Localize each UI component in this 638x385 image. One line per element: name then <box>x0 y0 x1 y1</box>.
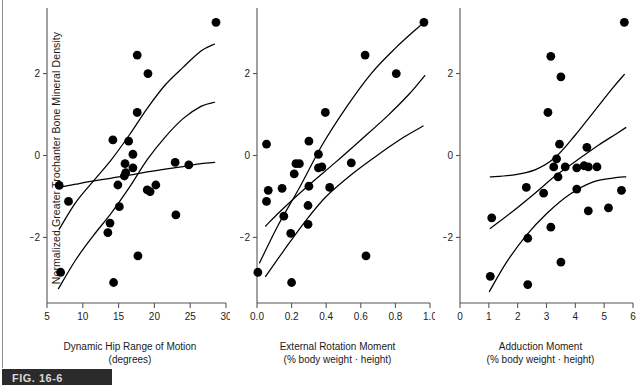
x-tick-label-2-2: 2 <box>515 311 521 322</box>
data-point <box>544 108 553 117</box>
data-point <box>620 18 629 27</box>
scatter-plot-2: 20−20123456 <box>443 0 638 340</box>
x-axis-caption-2: Adduction Moment (% body weight · height… <box>443 341 638 366</box>
data-point <box>325 183 334 192</box>
data-point <box>555 140 564 149</box>
data-point <box>593 163 602 172</box>
x-tick-label-2-6: 6 <box>630 311 636 322</box>
data-point <box>305 182 314 191</box>
data-point <box>557 72 566 81</box>
data-point <box>314 150 323 159</box>
y-tick-label-2-2: −2 <box>443 232 453 243</box>
data-point <box>314 163 323 172</box>
data-point <box>392 69 401 78</box>
data-point <box>523 280 532 289</box>
x-axis-caption-0: Dynamic Hip Range of Motion (degrees) <box>30 341 230 366</box>
data-point <box>264 186 273 195</box>
x-axis-title-1: External Rotation Moment <box>280 341 396 352</box>
data-point <box>212 18 221 27</box>
data-point <box>549 163 558 172</box>
x-tick-label-2-4: 4 <box>573 311 579 322</box>
data-point <box>290 170 299 179</box>
y-tick-label-0-2: −2 <box>30 232 40 243</box>
x-tick-label-2-1: 1 <box>486 311 492 322</box>
data-point <box>133 51 142 60</box>
data-point <box>106 219 115 228</box>
data-point <box>554 172 563 181</box>
y-tick-label-1-0: 2 <box>244 68 250 79</box>
x-tick-label-1-4: 0.8 <box>388 311 402 322</box>
data-point <box>295 159 304 168</box>
data-point <box>304 220 313 229</box>
x-axis-caption-1: External Rotation Moment (% body weight … <box>240 341 435 366</box>
data-point <box>286 229 295 238</box>
data-point <box>121 159 130 168</box>
x-tick-label-0-3: 20 <box>149 311 161 322</box>
data-point <box>546 223 555 232</box>
y-tick-label-0-0: 2 <box>34 68 40 79</box>
lower-confidence-band-1 <box>266 126 423 276</box>
figure-number-bar: FIG. 16-6 <box>2 369 112 385</box>
data-point <box>124 137 133 146</box>
data-point <box>134 251 143 260</box>
data-point <box>129 163 138 172</box>
x-tick-label-2-0: 0 <box>457 311 463 322</box>
y-tick-label-2-1: 0 <box>447 150 453 161</box>
y-tick-label-0-1: 0 <box>34 150 40 161</box>
lower-confidence-band-2 <box>489 177 625 292</box>
x-axis-title-0: Dynamic Hip Range of Motion <box>64 341 197 352</box>
panel-adduction-moment: 20−20123456 Adduction Moment (% body wei… <box>443 0 638 385</box>
data-point <box>321 108 330 117</box>
data-point <box>523 234 532 243</box>
x-tick-label-0-0: 5 <box>44 311 50 322</box>
data-point <box>278 184 287 193</box>
figure-number-label: FIG. 16-6 <box>12 372 63 384</box>
data-point <box>582 143 591 152</box>
data-point <box>362 251 371 260</box>
x-tick-label-0-2: 15 <box>113 311 125 322</box>
x-tick-label-2-3: 3 <box>544 311 550 322</box>
x-tick-label-0-5: 30 <box>220 311 230 322</box>
data-point <box>305 137 314 146</box>
x-tick-label-2-5: 5 <box>601 311 607 322</box>
y-tick-label-1-2: −2 <box>240 232 250 243</box>
scatter-plot-0: 20−251015202530 <box>30 0 230 340</box>
data-point <box>604 204 613 213</box>
data-point <box>584 163 593 172</box>
data-point <box>552 154 561 163</box>
data-point <box>487 213 496 222</box>
x-axis-units-2: (% body weight · height) <box>443 354 638 367</box>
data-point <box>171 211 180 220</box>
x-tick-label-0-4: 25 <box>185 311 197 322</box>
data-point <box>304 201 313 210</box>
x-axis-units-0: (degrees) <box>30 354 230 367</box>
data-point <box>347 158 356 167</box>
data-point <box>262 197 271 206</box>
data-point <box>420 18 429 27</box>
data-point <box>253 268 262 277</box>
data-point <box>129 150 138 159</box>
data-point <box>144 69 153 78</box>
data-point <box>361 51 370 60</box>
data-point <box>56 268 65 277</box>
y-tick-label-2-0: 2 <box>447 68 453 79</box>
data-point <box>184 161 193 170</box>
data-point <box>584 206 593 215</box>
regression-fit-1 <box>266 76 425 226</box>
figure-container: Normalized Greater Trochanter Bone Miner… <box>0 0 638 385</box>
data-point <box>103 228 112 237</box>
data-point <box>557 258 566 267</box>
scatter-plot-1: 20−20.00.20.40.60.81.0 <box>240 0 435 340</box>
data-point <box>143 186 152 195</box>
x-tick-label-1-3: 0.6 <box>354 311 368 322</box>
x-axis-title-2: Adduction Moment <box>499 341 582 352</box>
data-point <box>522 183 531 192</box>
data-point <box>64 197 73 206</box>
data-point <box>171 158 180 167</box>
x-tick-label-0-1: 10 <box>77 311 89 322</box>
data-point <box>486 272 495 281</box>
data-point <box>539 189 548 198</box>
data-point <box>561 163 570 172</box>
page-edge-rule <box>2 0 3 368</box>
data-point <box>108 136 117 145</box>
